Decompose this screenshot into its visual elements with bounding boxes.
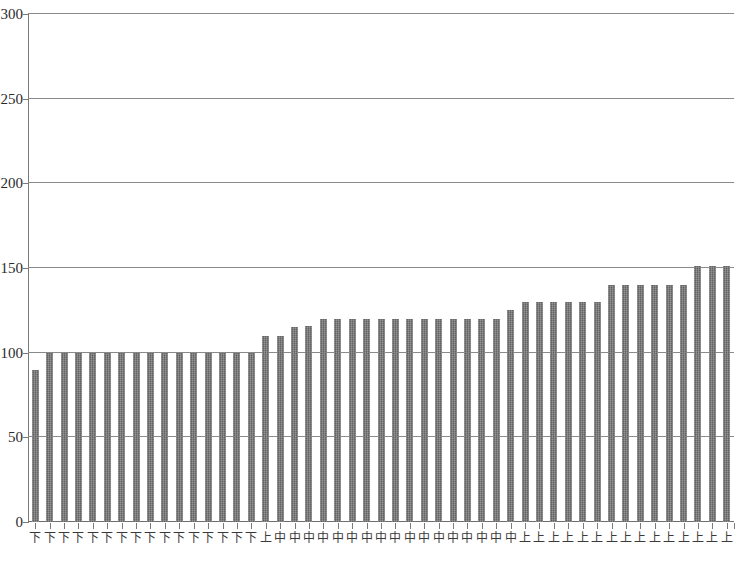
bar (219, 353, 226, 522)
x-tick-mark (309, 523, 310, 529)
bar (536, 302, 543, 522)
bar (666, 285, 673, 522)
bar (277, 336, 284, 522)
bar (579, 302, 586, 522)
x-tick-mark (511, 523, 512, 529)
bar (32, 370, 39, 522)
x-tick-mark (237, 523, 238, 529)
x-tick-mark (669, 523, 670, 529)
x-tick-mark (439, 523, 440, 529)
bars-layer (28, 14, 734, 522)
bar (435, 319, 442, 522)
x-tick-mark (410, 523, 411, 529)
x-tick-mark (381, 523, 382, 529)
bar (378, 319, 385, 522)
bar (464, 319, 471, 522)
x-tick-mark (734, 523, 735, 529)
x-tick-mark (525, 523, 526, 529)
bar (334, 319, 341, 522)
x-tick-mark (179, 523, 180, 529)
bar (507, 310, 514, 522)
x-tick-mark (482, 523, 483, 529)
x-tick-mark (539, 523, 540, 529)
x-tick-mark (251, 523, 252, 529)
figure-caption (18, 549, 718, 563)
bar (694, 266, 701, 522)
x-tick-mark (655, 523, 656, 529)
bar (147, 353, 154, 522)
bar (262, 336, 269, 522)
bar (89, 353, 96, 522)
x-tick-mark (280, 523, 281, 529)
x-tick-mark (50, 523, 51, 529)
bar (104, 353, 111, 522)
bar (406, 319, 413, 522)
bar (550, 302, 557, 522)
x-tick-mark (467, 523, 468, 529)
bar (392, 319, 399, 522)
x-tick-label: 上 (719, 530, 735, 546)
x-tick-mark (698, 523, 699, 529)
x-tick-mark (367, 523, 368, 529)
bar (349, 319, 356, 522)
bar (565, 302, 572, 522)
bar (75, 353, 82, 522)
bar (651, 285, 658, 522)
bar (594, 302, 601, 522)
bar (133, 353, 140, 522)
x-tick-mark (64, 523, 65, 529)
x-tick-mark (338, 523, 339, 529)
x-tick-mark (194, 523, 195, 529)
x-tick-mark (78, 523, 79, 529)
x-tick-mark (684, 523, 685, 529)
x-tick-mark (554, 523, 555, 529)
x-tick-mark (424, 523, 425, 529)
bar (233, 353, 240, 522)
x-tick-mark (223, 523, 224, 529)
x-tick-mark (640, 523, 641, 529)
bar (522, 302, 529, 522)
bar (161, 353, 168, 522)
bar (61, 353, 68, 522)
x-tick-mark (496, 523, 497, 529)
x-tick-mark (568, 523, 569, 529)
bar (450, 319, 457, 522)
x-tick-mark (266, 523, 267, 529)
bar (723, 266, 730, 522)
x-tick-mark (323, 523, 324, 529)
bar (291, 327, 298, 522)
x-tick-mark (727, 523, 728, 529)
x-tick-mark (165, 523, 166, 529)
bar (46, 353, 53, 522)
bar (709, 266, 716, 522)
bar (305, 326, 312, 522)
x-tick-mark (583, 523, 584, 529)
bar (637, 285, 644, 522)
bar (608, 285, 615, 522)
x-tick-mark (107, 523, 108, 529)
bar (363, 319, 370, 522)
x-tick-mark (352, 523, 353, 529)
bar (118, 353, 125, 522)
x-tick-mark (612, 523, 613, 529)
bar (680, 285, 687, 522)
x-tick-mark (712, 523, 713, 529)
bar (478, 319, 485, 522)
x-tick-mark (93, 523, 94, 529)
bar (320, 319, 327, 522)
x-tick-mark (122, 523, 123, 529)
x-tick-mark (136, 523, 137, 529)
x-axis-ticks (28, 523, 734, 530)
bar (190, 353, 197, 522)
plot-area (28, 14, 734, 522)
bar-chart-figure: 050100150200250300 下下下下下下下下下下下下下下下下上中中中中… (0, 0, 738, 565)
x-tick-mark (150, 523, 151, 529)
x-tick-mark (395, 523, 396, 529)
bar (622, 285, 629, 522)
x-tick-mark (35, 523, 36, 529)
x-tick-mark (453, 523, 454, 529)
bar (421, 319, 428, 522)
bar (248, 353, 255, 522)
x-tick-mark (295, 523, 296, 529)
bar (493, 319, 500, 522)
